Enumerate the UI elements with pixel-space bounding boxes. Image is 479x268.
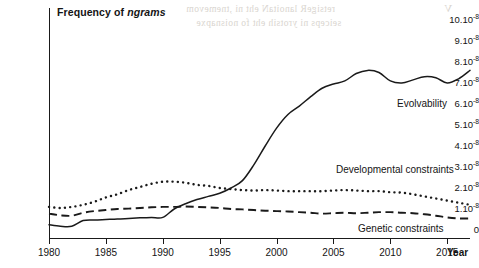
series-line-genetic-constraints xyxy=(49,206,470,218)
series-line-developmental-constraints xyxy=(49,181,470,207)
chart-figure: retsigeR lanoitaN eht ni ,tnemevom seice… xyxy=(0,0,479,268)
series-label-developmental-constraints: Developmental constraints xyxy=(336,164,454,175)
series-label-evolvability: Evolvability xyxy=(397,98,447,109)
series-label-genetic-constraints: Genetic constraints xyxy=(358,223,444,234)
series-line-evolvability xyxy=(49,70,470,226)
